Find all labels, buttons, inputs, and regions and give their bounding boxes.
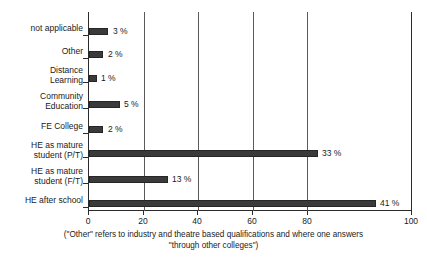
category-label: not applicable (0, 24, 83, 34)
xtick-label: 20 (128, 216, 158, 226)
bar-row: Community Education 5 % (0, 94, 427, 116)
footnote-line-1: ("Other" refers to industry and theatre … (0, 230, 427, 241)
category-label: HE as mature student (F/T) (0, 167, 83, 186)
category-label: FE College (0, 122, 83, 132)
bar (89, 126, 103, 133)
bar (89, 101, 120, 108)
bar (89, 75, 97, 82)
bar-value-label: 3 % (113, 27, 128, 36)
bar-row: not applicable 3 % (0, 24, 427, 46)
bar-value-label: 13 % (172, 175, 191, 184)
bar-row: HE as mature student (P/T) 33 % (0, 143, 427, 165)
category-label: Distance Learning (0, 66, 83, 85)
bar-row: HE after school 41 % (0, 196, 427, 218)
xtick-label: 60 (237, 216, 267, 226)
bar (89, 28, 108, 35)
bar-value-label: 5 % (124, 100, 139, 109)
bar (89, 200, 376, 207)
xtick-label: 100 (396, 216, 426, 226)
xtick-20 (143, 211, 144, 215)
category-label: HE as mature student (P/T) (0, 141, 83, 160)
xtick-100 (411, 211, 412, 215)
xtick-80 (307, 211, 308, 215)
category-label: HE after school (0, 196, 83, 206)
xtick-label: 80 (292, 216, 322, 226)
xtick-60 (252, 211, 253, 215)
xtick-40 (197, 211, 198, 215)
bar-value-label: 2 % (108, 125, 123, 134)
bar-row: Distance Learning 1 % (0, 68, 427, 90)
bar-value-label: 2 % (108, 50, 123, 59)
category-tick (83, 108, 88, 109)
category-tick (83, 82, 88, 83)
bar-value-label: 33 % (322, 149, 341, 158)
bar (89, 176, 168, 183)
category-tick (83, 183, 88, 184)
bar-row: HE as mature student (F/T) 13 % (0, 169, 427, 191)
bar-value-label: 1 % (101, 74, 116, 83)
bar-chart: not applicable 3 % Other 2 % Distance Le… (0, 0, 427, 261)
category-label: Other (0, 47, 83, 57)
xtick-label: 0 (73, 216, 103, 226)
chart-footnote: ("Other" refers to industry and theatre … (0, 230, 427, 251)
category-tick (83, 35, 88, 36)
xtick-label: 40 (182, 216, 212, 226)
category-tick (83, 157, 88, 158)
footnote-line-2: "through other colleges") (0, 241, 427, 252)
bar (89, 51, 103, 58)
category-label: Community Education (0, 92, 83, 111)
bar-value-label: 41 % (380, 199, 399, 208)
bar (89, 150, 318, 157)
category-tick (83, 207, 88, 208)
category-tick (83, 58, 88, 59)
xtick-0 (88, 211, 89, 215)
category-tick (83, 133, 88, 134)
